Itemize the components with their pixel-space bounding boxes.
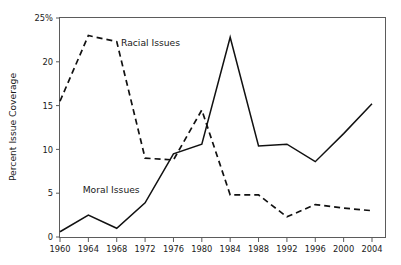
y-tick-label: 20 bbox=[42, 57, 53, 67]
y-tick-label: 10 bbox=[42, 145, 53, 155]
y-tick-label: 15 bbox=[42, 101, 53, 111]
x-tick-label: 1996 bbox=[305, 244, 326, 254]
line-chart: 0510152025% 1960196419681972197619801984… bbox=[0, 0, 401, 265]
x-tick-label: 1976 bbox=[163, 244, 184, 254]
x-tick-label: 1972 bbox=[135, 244, 156, 254]
x-tick-label: 2000 bbox=[333, 244, 354, 254]
x-tick-label: 1988 bbox=[248, 244, 269, 254]
y-axis-title: Percent Issue Coverage bbox=[7, 73, 18, 182]
x-tick-label: 2004 bbox=[361, 244, 382, 254]
x-tick-label: 1984 bbox=[220, 244, 241, 254]
series-line-moral-issues bbox=[60, 37, 372, 231]
series-annotation-label: Moral Issues bbox=[83, 184, 140, 195]
y-tick-label: 25% bbox=[35, 13, 54, 23]
x-tick-label: 1960 bbox=[49, 244, 70, 254]
y-tick-label: 0 bbox=[48, 232, 53, 242]
series-annotation-label: Racial Issues bbox=[121, 37, 180, 48]
x-tick-label: 1980 bbox=[191, 244, 212, 254]
y-tick-label: 5 bbox=[48, 188, 53, 198]
x-tick-label: 1968 bbox=[106, 244, 127, 254]
chart-container: 0510152025% 1960196419681972197619801984… bbox=[0, 0, 401, 265]
plot-frame bbox=[60, 18, 386, 238]
x-axis-ticks: 1960196419681972197619801984198819921996… bbox=[49, 237, 382, 254]
x-tick-label: 1992 bbox=[276, 244, 297, 254]
x-tick-label: 1964 bbox=[78, 244, 99, 254]
y-axis-ticks: 0510152025% bbox=[35, 13, 60, 242]
series-annotations: Racial IssuesMoral Issues bbox=[83, 37, 181, 195]
